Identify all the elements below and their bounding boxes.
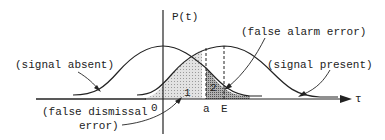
signal-absent-leader (78, 72, 98, 89)
region-2-label: 2 (210, 83, 217, 94)
origin-label: 0 (151, 103, 158, 114)
x-axis-arrow-icon (340, 95, 352, 103)
false-dismissal-annotation-line2: error) (79, 121, 119, 132)
false-dismissal-annotation-line1: (false dismissal (42, 107, 148, 118)
signal-present-leader (302, 70, 330, 95)
threshold-a-label: a (203, 104, 210, 115)
mean-E-label: E (221, 104, 228, 115)
y-axis-label: P(t) (172, 12, 198, 23)
region-1-label: 1 (184, 88, 191, 99)
false-alarm-annotation: (false alarm error) (241, 27, 366, 38)
false-alarm-leader (228, 38, 265, 87)
signal-present-annotation: (signal present) (267, 60, 373, 71)
signal-present-arrow-icon (298, 91, 307, 97)
signal-absent-annotation: (signal absent) (15, 60, 114, 71)
x-axis-label: τ (355, 94, 362, 105)
detection-diagram: P(t) τ 0 a E 1 2 (signal absent) (signal… (0, 0, 385, 140)
